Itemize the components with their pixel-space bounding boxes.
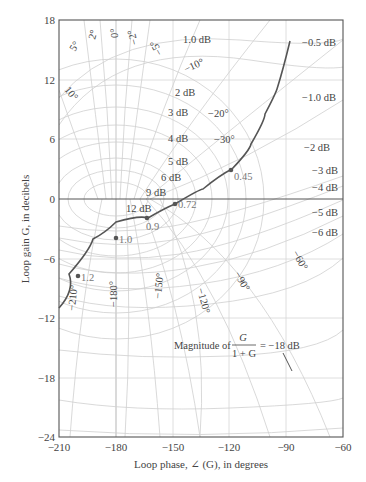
phase-label-0: 0° <box>109 29 120 38</box>
mag-label-neg6db: −6 dB <box>312 227 338 238</box>
mag-label-9db: 9 dB <box>146 187 166 198</box>
x-tick-neg90: −90 <box>277 441 295 453</box>
y-tick-neg6: −6 <box>43 253 55 265</box>
mag-label-neg0-5db: −0.5 dB <box>302 37 336 48</box>
annotation-prefix: Magnitude of <box>174 340 231 351</box>
phase-label-neg10: −10° <box>182 56 205 75</box>
x-tick-neg120: −120 <box>218 441 241 453</box>
mag-label-4db: 4 dB <box>168 133 188 144</box>
phase-label-neg30: −30° <box>214 134 235 145</box>
phase-label-10: 10° <box>62 84 80 102</box>
phase-label-5: 5° <box>67 39 81 53</box>
phase-label-neg5: −5° <box>148 39 165 58</box>
mag-label-neg3db: −3 dB <box>312 165 338 176</box>
mag-label-3db: 3 dB <box>168 107 188 118</box>
annotation-numerator: G <box>239 332 247 343</box>
y-axis-title: Loop gain G, in decibels <box>19 175 31 283</box>
annotation-leader-line <box>283 353 292 371</box>
annotation-denominator: 1 + G <box>232 348 256 359</box>
mag-label-5db: 5 dB <box>168 156 188 167</box>
x-tick-neg150: −150 <box>162 441 185 453</box>
marker-0-72 <box>173 202 178 207</box>
freq-label-0-72: 0.72 <box>178 199 196 210</box>
marker-1-2 <box>76 274 81 279</box>
freq-label-0-9: 0.9 <box>146 221 159 232</box>
y-axis-ticks: 18 12 6 0 −6 −12 −18 −24 <box>38 14 56 443</box>
x-tick-neg210: −210 <box>48 441 71 453</box>
x-axis-title: Loop phase, ∠ (G), in degrees <box>134 458 268 471</box>
mag-label-6db: 6 dB <box>161 172 181 183</box>
y-tick-neg12: −12 <box>38 312 55 324</box>
marker-1-0 <box>114 236 119 241</box>
y-tick-0: 0 <box>50 193 56 205</box>
phase-label-2: 2° <box>86 29 99 41</box>
freq-label-1-2: 1.2 <box>81 272 94 283</box>
y-tick-neg18: −18 <box>38 372 56 384</box>
y-tick-12: 12 <box>44 74 55 86</box>
freq-label-1-0: 1.0 <box>119 234 132 245</box>
phase-label-neg90: −90° <box>232 270 252 293</box>
y-tick-18: 18 <box>44 14 56 26</box>
phase-label-neg20: −20° <box>208 108 229 119</box>
mag-label-12db: 12 dB <box>126 203 151 214</box>
mag-label-2db: 2 dB <box>175 87 195 98</box>
x-tick-neg60: −60 <box>334 441 352 453</box>
freq-label-0-45: 0.45 <box>234 171 252 182</box>
annotation-value: = −18 dB <box>260 340 300 351</box>
phase-label-neg180: −180° <box>108 281 119 307</box>
x-axis-ticks: −210 −180 −150 −120 −90 −60 <box>48 441 352 453</box>
mag-label-neg2db: −2 dB <box>304 142 330 153</box>
marker-0-45 <box>229 168 234 173</box>
phase-label-neg150: −150° <box>152 272 165 299</box>
x-tick-neg180: −180 <box>105 441 128 453</box>
marker-0-9 <box>145 216 150 221</box>
phase-label-neg2: −2° <box>125 29 140 47</box>
mag-label-1db: 1.0 dB <box>183 34 211 45</box>
nichols-chart: 0.45 0.72 0.9 1.0 1.2 1.0 dB 2 dB 3 dB 4… <box>0 0 366 482</box>
y-tick-6: 6 <box>50 133 56 145</box>
phase-label-neg60: −60° <box>290 249 310 272</box>
mag-label-neg5db: −5 dB <box>312 207 338 218</box>
mag-label-neg4db: −4 dB <box>312 182 338 193</box>
phase-label-neg210: −210° <box>66 284 79 311</box>
mag-label-neg1db: −1.0 dB <box>302 92 336 103</box>
